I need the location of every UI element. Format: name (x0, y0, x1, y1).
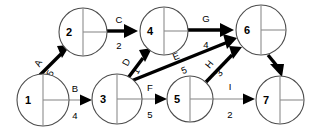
node-4-label: 4 (147, 25, 154, 37)
node-2[interactable]: 2 (59, 8, 107, 56)
edge-b: B 4 (69, 83, 92, 121)
node-6-label: 6 (244, 24, 250, 36)
edge-f: F 5 (142, 82, 167, 120)
edge-c-arrowhead (124, 24, 138, 38)
edge-i-arrowhead (243, 94, 255, 105)
node-7[interactable]: 7 (256, 76, 304, 124)
edge-c-label: C (116, 14, 123, 25)
edge-i-label: I (229, 81, 232, 92)
edge-f-label: F (147, 82, 153, 93)
edge-a-label: A (32, 57, 45, 68)
edge-b-arrowhead (80, 95, 92, 106)
edge-g-weight: 4 (203, 39, 208, 50)
edge-6-to-7-arrowhead (270, 64, 284, 77)
node-1-label: 1 (25, 94, 31, 106)
node-5-label: 5 (174, 93, 180, 105)
node-3[interactable]: 3 (92, 74, 142, 124)
node-6[interactable]: 6 (236, 5, 286, 55)
edge-c: C 2 (107, 14, 138, 51)
edge-g-label: G (202, 13, 209, 24)
edge-d-label: D (120, 56, 133, 67)
edge-c-weight: 2 (116, 40, 121, 51)
diagram-canvas: B 4 F 5 I 2 A 5 C 2 (0, 0, 313, 133)
node-1[interactable]: 1 (17, 74, 69, 126)
edge-e-weight: 5 (179, 64, 188, 76)
edge-b-label: B (72, 83, 78, 94)
node-5[interactable]: 5 (167, 76, 213, 122)
edge-g-arrowhead (220, 23, 234, 37)
edge-6-to-7 (268, 55, 284, 77)
edge-f-weight: 5 (147, 109, 152, 120)
edge-h-label: H (203, 58, 216, 70)
node-2-label: 2 (66, 26, 72, 38)
node-4[interactable]: 4 (140, 7, 188, 55)
node-7-label: 7 (263, 94, 269, 106)
edge-i-weight: 2 (227, 109, 232, 120)
edge-b-weight: 4 (72, 110, 77, 121)
edge-i: I 2 (213, 81, 255, 120)
edge-f-arrowhead (155, 94, 167, 105)
network-diagram: B 4 F 5 I 2 A 5 C 2 (0, 0, 313, 133)
edge-a: A 5 (32, 45, 70, 78)
node-3-label: 3 (100, 93, 106, 105)
